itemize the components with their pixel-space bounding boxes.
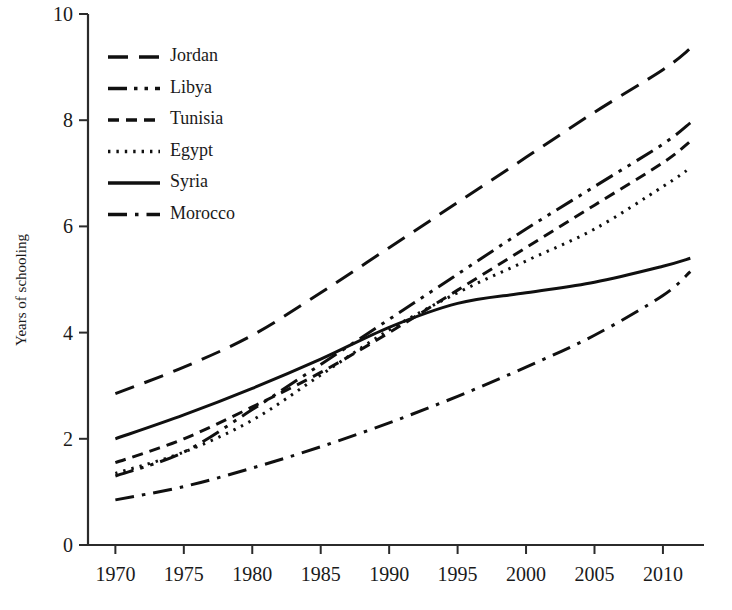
x-tick-label: 1980	[232, 563, 272, 585]
chart-canvas: Years of schooling 0246810 1970197519801…	[0, 0, 732, 610]
legend-label-egypt: Egypt	[170, 140, 213, 160]
chart-legend: JordanLibyaTunisiaEgyptSyriaMorocco	[108, 45, 235, 223]
x-tick-label: 1995	[438, 563, 478, 585]
x-tick-label: 1975	[164, 563, 204, 585]
y-tick-group: 0246810	[53, 3, 88, 556]
y-tick-label: 8	[63, 109, 73, 131]
series-line-syria	[115, 258, 690, 439]
y-tick-label: 6	[63, 215, 73, 237]
x-tick-label: 2005	[574, 563, 614, 585]
line-chart: Years of schooling 0246810 1970197519801…	[0, 0, 732, 610]
series-line-morocco	[115, 272, 690, 500]
legend-label-libya: Libya	[170, 77, 212, 97]
x-tick-label: 2000	[506, 563, 546, 585]
x-tick-group: 197019751980198519901995200020052010	[95, 545, 683, 585]
y-tick-label: 4	[63, 322, 73, 344]
x-tick-label: 2010	[643, 563, 683, 585]
y-tick-label: 10	[53, 3, 73, 25]
x-tick-label: 1990	[369, 563, 409, 585]
y-tick-label: 2	[63, 428, 73, 450]
y-tick-label: 0	[63, 534, 73, 556]
legend-label-tunisia: Tunisia	[170, 108, 223, 128]
legend-label-morocco: Morocco	[170, 203, 235, 223]
legend-label-syria: Syria	[170, 171, 208, 191]
y-axis-title: Years of schooling	[13, 234, 29, 346]
x-tick-label: 1985	[301, 563, 341, 585]
legend-label-jordan: Jordan	[170, 45, 218, 65]
x-tick-label: 1970	[95, 563, 135, 585]
